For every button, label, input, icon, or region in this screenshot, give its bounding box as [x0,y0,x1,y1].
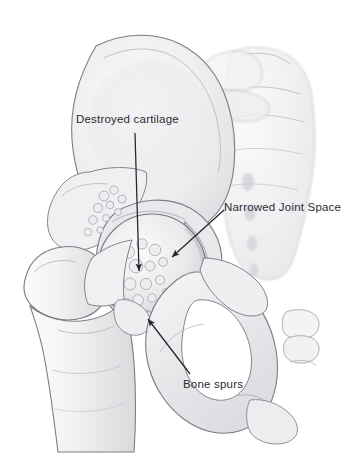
ischium [247,400,298,444]
hip-osteoarthritis-illustration: Destroyed cartilage Narrowed Joint Space… [0,0,363,456]
label-destroyed-cartilage: Destroyed cartilage [76,114,179,126]
anatomy-drawing [0,0,363,456]
label-narrowed-joint-space: Narrowed Joint Space [224,202,341,214]
coccyx [282,310,319,366]
label-bone-spurs: Bone spurs [183,379,243,391]
